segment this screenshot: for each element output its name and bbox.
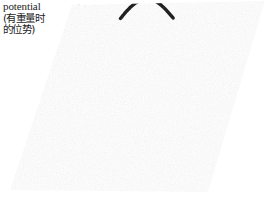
potential-caption: potential (有重量时 的位势) xyxy=(3,1,69,36)
cutoff-caption-left xyxy=(6,200,96,205)
caption-line-cjk-2: 的位势) xyxy=(3,24,69,36)
cutoff-caption-right xyxy=(140,199,230,204)
caption-line-english: potential xyxy=(3,1,69,13)
figure-root: potential (有重量时 的位势) xyxy=(0,0,270,207)
